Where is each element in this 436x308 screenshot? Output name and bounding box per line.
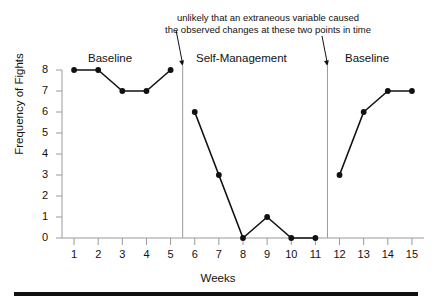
y-tick-label: 4 <box>32 147 48 159</box>
y-tick-label: 5 <box>32 126 48 138</box>
x-tick-label: 12 <box>332 248 348 260</box>
plot-area <box>0 0 436 308</box>
axis-lines <box>62 70 424 238</box>
bottom-rule <box>14 292 418 296</box>
data-line-segments <box>74 70 412 238</box>
y-tick-label: 7 <box>32 84 48 96</box>
x-tick-label: 4 <box>138 248 154 260</box>
phase-divider-lines <box>183 66 328 238</box>
y-tick-label: 0 <box>32 231 48 243</box>
x-tick-label: 7 <box>211 248 227 260</box>
x-tick-label: 8 <box>235 248 251 260</box>
y-axis-ticks <box>56 70 62 238</box>
x-tick-label: 14 <box>380 248 396 260</box>
x-tick-label: 3 <box>114 248 130 260</box>
x-tick-label: 13 <box>356 248 372 260</box>
y-tick-label: 8 <box>32 63 48 75</box>
x-tick-label: 2 <box>90 248 106 260</box>
chart-figure: unlikely that an extraneous variable cau… <box>0 0 436 308</box>
x-tick-label: 15 <box>404 248 420 260</box>
x-tick-label: 9 <box>259 248 275 260</box>
data-point-markers <box>71 67 415 241</box>
x-tick-label: 11 <box>307 248 323 260</box>
y-tick-label: 3 <box>32 168 48 180</box>
x-tick-label: 6 <box>187 248 203 260</box>
x-tick-label: 1 <box>66 248 82 260</box>
y-tick-label: 2 <box>32 189 48 201</box>
y-tick-label: 1 <box>32 210 48 222</box>
x-tick-label: 10 <box>283 248 299 260</box>
y-tick-label: 6 <box>32 105 48 117</box>
x-tick-label: 5 <box>163 248 179 260</box>
annotation-arrows <box>176 30 329 66</box>
